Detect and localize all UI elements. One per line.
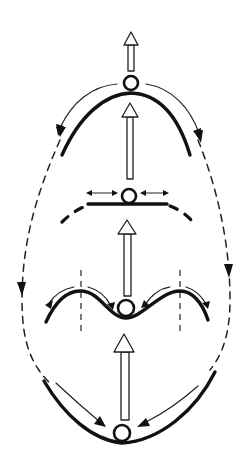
- open-arrow-up-3: [118, 220, 136, 296]
- dashed-loop-right: [198, 140, 230, 370]
- double-arrow-right: [140, 190, 169, 196]
- curved-arrow-left: [60, 84, 117, 128]
- loop-arrowhead-left-lower: [17, 282, 26, 296]
- ball-stable: [114, 425, 130, 441]
- stability-diagram: [0, 0, 249, 467]
- arrowhead: [137, 418, 150, 427]
- arrow-into-bowl-right: [146, 386, 198, 422]
- open-arrow-up-4: [114, 334, 134, 420]
- curved-arrow-right: [146, 84, 199, 133]
- hilltop-curve: [62, 93, 190, 155]
- arrowhead: [45, 300, 53, 309]
- arrowhead: [94, 416, 106, 427]
- open-arrow-up-1: [124, 32, 138, 71]
- flat-dashed-right: [170, 206, 192, 221]
- open-arrow-up-2: [122, 103, 138, 179]
- flat-dashed-left: [62, 206, 86, 222]
- ball-unstable: [124, 76, 138, 90]
- ball-metastable: [118, 300, 134, 316]
- stage-neutral: [62, 189, 192, 222]
- dashed-loop-left: [22, 140, 60, 385]
- double-arrow-left: [86, 190, 118, 196]
- diagram-canvas: [0, 0, 249, 467]
- loop-arrowhead-right-lower: [224, 264, 233, 278]
- arrow-right-hill-out: [186, 287, 206, 304]
- arrow-left-hill-in: [88, 287, 111, 306]
- arrow-into-bowl-left: [56, 383, 100, 422]
- ball-neutral: [122, 189, 136, 203]
